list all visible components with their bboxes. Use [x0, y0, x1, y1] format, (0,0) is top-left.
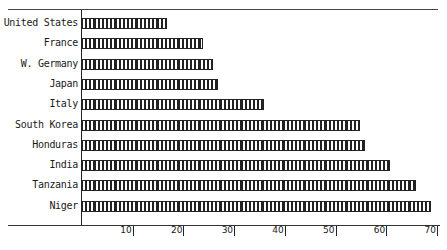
horizontal-bar-chart: United StatesFranceW. GermanyJapanItalyS…: [0, 0, 447, 250]
bar-row: Honduras: [0, 140, 447, 152]
bar: [82, 38, 203, 49]
x-tick-mark: [437, 226, 438, 236]
bar: [82, 201, 431, 212]
x-tick-label: 10: [112, 225, 132, 235]
category-label: Honduras: [32, 139, 78, 151]
bar-row: South Korea: [0, 120, 447, 132]
bar: [82, 99, 264, 110]
bar: [82, 59, 213, 70]
x-tick-mark: [285, 226, 286, 236]
x-tick-label: 20: [162, 225, 182, 235]
bar: [82, 160, 390, 171]
category-label: Italy: [49, 98, 78, 110]
bar: [82, 18, 167, 29]
bar-row: W. Germany: [0, 59, 447, 71]
top-rule: [8, 9, 438, 10]
bar: [82, 140, 365, 151]
x-tick-mark: [183, 226, 184, 236]
bar: [82, 120, 360, 131]
x-tick-label: 60: [365, 225, 385, 235]
category-label: United States: [4, 17, 78, 29]
x-tick-label: 70: [416, 225, 436, 235]
bar-row: France: [0, 38, 447, 50]
category-label: Niger: [49, 200, 78, 212]
x-tick-mark: [133, 226, 134, 236]
bar-row: United States: [0, 18, 447, 30]
category-label: France: [44, 37, 78, 49]
bar-row: India: [0, 160, 447, 172]
bar: [82, 180, 416, 191]
category-label: W. Germany: [21, 58, 78, 70]
category-label: Tanzania: [32, 179, 78, 191]
x-tick-mark: [386, 226, 387, 236]
category-label: India: [49, 159, 78, 171]
x-tick-label: 50: [315, 225, 335, 235]
category-label: Japan: [49, 78, 78, 90]
x-tick-label: 30: [213, 225, 233, 235]
bar-row: Italy: [0, 99, 447, 111]
x-tick-mark: [336, 226, 337, 236]
bar-row: Tanzania: [0, 180, 447, 192]
bar: [82, 79, 218, 90]
bar-row: Japan: [0, 79, 447, 91]
x-tick-label: 40: [264, 225, 284, 235]
x-tick-mark: [234, 226, 235, 236]
category-label: South Korea: [15, 119, 78, 131]
bar-row: Niger: [0, 201, 447, 213]
